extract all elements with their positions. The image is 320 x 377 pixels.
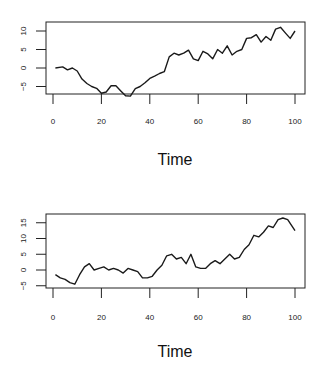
y-tick-label: 0 bbox=[19, 267, 28, 272]
x-tick-label: 40 bbox=[145, 313, 154, 322]
x-tick-label: 100 bbox=[288, 313, 302, 322]
x-tick-label: 20 bbox=[97, 117, 106, 126]
plot-1: 1050−5 020406080100 Time bbox=[19, 22, 305, 168]
plot-1-x-axis: 020406080100 bbox=[51, 94, 302, 126]
plot-2-x-axis-title: Time bbox=[158, 343, 193, 360]
x-tick-label: 100 bbox=[288, 117, 302, 126]
plot-2-x-axis: 020406080100 bbox=[51, 288, 302, 322]
x-tick-label: 0 bbox=[51, 117, 56, 126]
x-tick-label: 0 bbox=[51, 313, 56, 322]
x-tick-label: 60 bbox=[194, 117, 203, 126]
y-tick-label: 5 bbox=[19, 251, 28, 256]
y-tick-label: 0 bbox=[19, 65, 28, 70]
x-tick-label: 60 bbox=[194, 313, 203, 322]
chart-canvas: 1050−5 020406080100 Time 151050−5 020406… bbox=[0, 0, 320, 377]
y-tick-label: 10 bbox=[19, 234, 28, 243]
plot-2: 151050−5 020406080100 Time bbox=[19, 214, 305, 360]
plot-2-series-line bbox=[55, 218, 295, 284]
y-tick-label: −5 bbox=[19, 281, 28, 291]
plot-1-frame bbox=[46, 22, 305, 94]
plot-1-series-line bbox=[55, 27, 295, 96]
x-tick-label: 20 bbox=[97, 313, 106, 322]
plot-2-y-axis: 151050−5 bbox=[19, 218, 46, 291]
y-tick-label: 10 bbox=[19, 26, 28, 35]
plot-1-x-axis-title: Time bbox=[158, 151, 193, 168]
y-tick-label: −5 bbox=[19, 81, 28, 91]
x-tick-label: 40 bbox=[145, 117, 154, 126]
x-tick-label: 80 bbox=[242, 313, 251, 322]
x-tick-label: 80 bbox=[242, 117, 251, 126]
plot-1-y-axis: 1050−5 bbox=[19, 26, 46, 91]
y-tick-label: 15 bbox=[19, 218, 28, 227]
plot-2-frame bbox=[46, 214, 305, 288]
y-tick-label: 5 bbox=[19, 47, 28, 52]
